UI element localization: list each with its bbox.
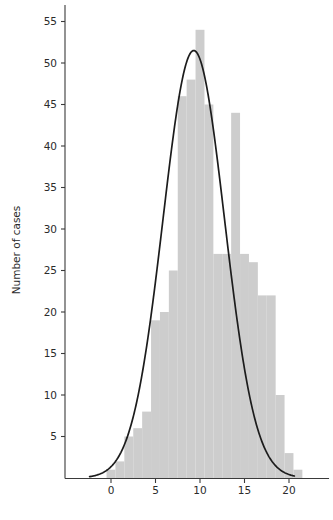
- histogram-figure: 510152025303540455055 05101520 Number of…: [0, 0, 333, 520]
- histogram-bars: [107, 30, 303, 478]
- y-tick-label: 10: [44, 389, 57, 401]
- x-tick-label: 10: [193, 484, 206, 496]
- y-tick-label: 15: [44, 347, 57, 359]
- histogram-bar: [249, 262, 258, 478]
- y-tick-label: 30: [44, 223, 57, 235]
- histogram-bar: [231, 113, 240, 478]
- y-tick-label: 55: [44, 15, 57, 27]
- y-axis-ticks: 510152025303540455055: [44, 15, 65, 442]
- histogram-bar: [222, 254, 231, 478]
- y-tick-label: 35: [44, 181, 57, 193]
- histogram-bar: [276, 395, 285, 478]
- histogram-bar: [267, 295, 276, 478]
- y-tick-label: 5: [50, 430, 57, 442]
- histogram-bar: [151, 320, 160, 478]
- x-tick-label: 15: [238, 484, 251, 496]
- histogram-bar: [133, 428, 142, 478]
- histogram-bar: [160, 312, 169, 478]
- histogram-bar: [293, 470, 302, 478]
- histogram-bar: [187, 80, 196, 478]
- y-tick-label: 25: [44, 264, 57, 276]
- chart-canvas: 510152025303540455055 05101520 Number of…: [0, 0, 333, 520]
- histogram-bar: [213, 254, 222, 478]
- y-axis-title: Number of cases: [10, 206, 22, 295]
- x-tick-label: 5: [152, 484, 159, 496]
- histogram-bar: [196, 30, 205, 478]
- y-tick-label: 50: [44, 57, 57, 69]
- histogram-bar: [142, 412, 151, 478]
- y-tick-label: 20: [44, 306, 57, 318]
- y-tick-label: 40: [44, 140, 57, 152]
- x-axis-ticks: 05101520: [108, 479, 296, 497]
- y-tick-label: 45: [44, 98, 57, 110]
- histogram-bar: [107, 470, 116, 478]
- x-tick-label: 20: [282, 484, 295, 496]
- histogram-bar: [178, 96, 187, 478]
- histogram-bar: [115, 461, 124, 478]
- histogram-bar: [204, 105, 213, 479]
- x-tick-label: 0: [108, 484, 115, 496]
- histogram-bar: [169, 271, 178, 479]
